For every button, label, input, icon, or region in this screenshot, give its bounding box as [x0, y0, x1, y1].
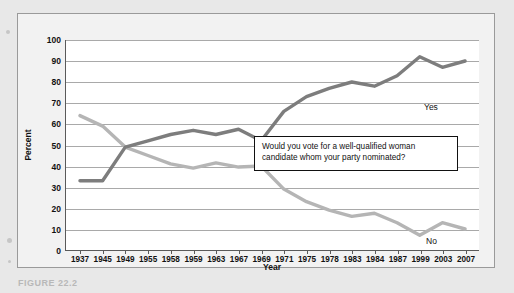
x-tick-mark	[398, 250, 399, 254]
y-tick-label: 30	[52, 183, 61, 192]
chart-panel: Percent 0102030405060708090100 193719451…	[17, 13, 495, 268]
y-tick-label: 60	[52, 120, 61, 129]
x-axis-title: Year	[65, 262, 479, 272]
x-tick-mark	[80, 250, 81, 254]
x-tick-mark	[307, 250, 308, 254]
y-tick-label: 10	[52, 226, 61, 235]
figure-root: Percent 0102030405060708090100 193719451…	[0, 0, 514, 293]
scan-artifact	[6, 30, 10, 34]
y-tick-label: 20	[52, 205, 61, 214]
y-tick-label: 50	[52, 141, 61, 150]
y-axis-title: Percent	[23, 129, 33, 160]
y-tick-label: 100	[47, 36, 61, 45]
scan-artifact	[7, 238, 12, 243]
y-tick-label: 0	[56, 247, 61, 256]
x-tick-mark	[125, 250, 126, 254]
survey-question-annotation: Would you vote for a well-qualified woma…	[254, 136, 458, 171]
x-tick-mark	[216, 250, 217, 254]
x-tick-mark	[262, 250, 263, 254]
x-tick-mark	[194, 250, 195, 254]
x-tick-mark	[171, 250, 172, 254]
x-tick-mark	[421, 250, 422, 254]
series-line-no	[80, 116, 465, 236]
y-tick-label: 90	[52, 57, 61, 66]
series-label-no: No	[426, 237, 437, 246]
x-tick-mark	[284, 250, 285, 254]
x-tick-mark	[148, 250, 149, 254]
x-tick-mark	[239, 250, 240, 254]
x-tick-mark	[330, 250, 331, 254]
scan-artifact	[8, 260, 11, 263]
y-tick-label: 40	[52, 162, 61, 171]
series-label-yes: Yes	[424, 103, 438, 112]
x-tick-mark	[352, 250, 353, 254]
x-tick-mark	[443, 250, 444, 254]
figure-caption: FIGURE 22.2	[18, 278, 78, 288]
x-tick-mark	[103, 250, 104, 254]
y-tick-label: 70	[52, 99, 61, 108]
x-tick-mark	[375, 250, 376, 254]
x-tick-mark	[466, 250, 467, 254]
y-tick-label: 80	[52, 78, 61, 87]
